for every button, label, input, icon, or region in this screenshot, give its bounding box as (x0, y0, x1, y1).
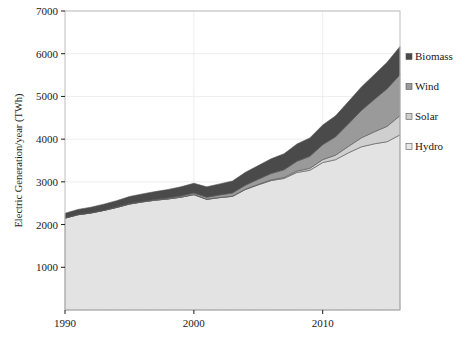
x-tick-label: 2010 (312, 317, 335, 329)
legend-swatch-wind (406, 84, 412, 90)
legend-swatch-biomass (406, 54, 412, 60)
figure-caption (0, 349, 467, 357)
stacked-area-chart: 1000200030004000500060007000199020002010… (0, 0, 467, 357)
y-tick-label: 5000 (36, 90, 59, 102)
legend-swatch-hydro (406, 144, 412, 150)
legend-label-solar: Solar (415, 110, 439, 122)
legend-label-wind: Wind (415, 80, 439, 92)
legend-label-hydro: Hydro (415, 140, 444, 152)
legend-label-biomass: Biomass (415, 50, 453, 62)
y-tick-label: 7000 (36, 5, 59, 17)
y-tick-label: 3000 (36, 176, 59, 188)
y-tick-label: 4000 (36, 133, 59, 145)
y-tick-label: 1000 (36, 261, 59, 273)
y-tick-label: 2000 (36, 219, 59, 231)
legend-swatch-solar (406, 114, 412, 120)
x-tick-label: 1990 (54, 317, 77, 329)
x-tick-label: 2000 (183, 317, 206, 329)
chart-figure: 1000200030004000500060007000199020002010… (0, 0, 467, 357)
y-axis-title: Electric Generation/year (TWh) (13, 93, 25, 228)
y-tick-label: 6000 (36, 48, 59, 60)
